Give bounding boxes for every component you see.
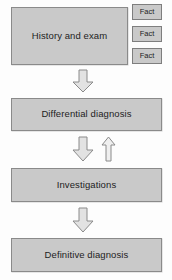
fact-box-1[interactable]: Fact: [132, 4, 162, 20]
flow-node-definitive-diagnosis[interactable]: Definitive diagnosis: [11, 238, 162, 272]
flow-node-label: History and exam: [29, 31, 111, 41]
arrow-down-differential-to-investigations: [71, 136, 95, 162]
flow-node-label: Differential diagnosis: [38, 109, 134, 119]
flow-node-label: Investigations: [54, 180, 120, 190]
flow-node-differential-diagnosis[interactable]: Differential diagnosis: [11, 98, 162, 131]
fact-box-label: Fact: [140, 52, 155, 60]
fact-box-3[interactable]: Fact: [132, 48, 162, 64]
arrow-down-history-to-differential: [71, 69, 95, 93]
flow-node-history-and-exam[interactable]: History and exam: [11, 7, 128, 65]
arrow-down-investigations-to-definitive: [71, 207, 95, 233]
fact-box-2[interactable]: Fact: [132, 26, 162, 42]
fact-box-label: Fact: [140, 8, 155, 16]
flow-node-label: Definitive diagnosis: [42, 250, 132, 260]
diagnostic-flowchart: History and exam Fact Fact Fact Differen…: [0, 0, 172, 280]
fact-box-label: Fact: [140, 30, 155, 38]
flow-node-investigations[interactable]: Investigations: [11, 168, 162, 202]
arrow-up-investigations-to-differential: [101, 136, 116, 162]
